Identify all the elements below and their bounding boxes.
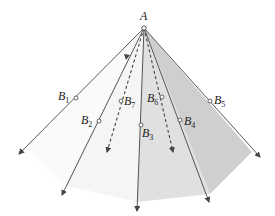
pyramid-diagram: B1B2B7B3B6B4B5A [0, 0, 275, 216]
point-b5 [208, 99, 212, 103]
point-b7 [119, 99, 123, 103]
point-b4 [178, 118, 182, 122]
point-a [142, 26, 146, 30]
diagram-svg: B1B2B7B3B6B4B5A [0, 0, 275, 216]
point-b2 [97, 119, 101, 123]
point-b6 [160, 95, 164, 99]
label-b1: B1 [58, 89, 69, 105]
label-b5: B5 [214, 93, 225, 109]
point-b1 [74, 96, 78, 100]
label-a: A [139, 9, 148, 23]
